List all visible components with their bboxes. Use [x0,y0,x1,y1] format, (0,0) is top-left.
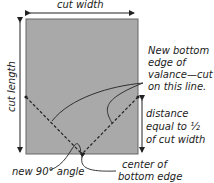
distance-line-2: equal to ½ [146,121,200,132]
note-line-4: on this line. [148,81,206,92]
distance-line-1: distance [146,108,188,119]
angle-label: new 90° angle [12,166,85,177]
center-dot [80,152,83,155]
center-leader [82,157,116,171]
corner-dot-right [136,95,139,98]
valance-cutting-diagram: cut width cut length New bottom edge of … [0,0,214,183]
note-line-2: edge of [148,57,187,68]
center-line-1: center of [122,159,168,170]
center-line-2: bottom edge [118,171,182,182]
note-line-1: New bottom [148,45,209,56]
corner-dot-left [24,95,27,98]
distance-line-3: of cut width [146,134,205,145]
cut-length-label: cut length [6,61,17,112]
note-line-3: valance—cut [148,69,214,80]
cut-width-label: cut width [57,0,104,10]
